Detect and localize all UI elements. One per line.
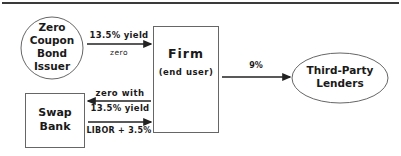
issuer-node: Zero Coupon Bond Issuer (21, 21, 83, 73)
swap-bank-label-line: Swap (25, 106, 85, 120)
edge-label-firm-swap-above: zero with (88, 88, 152, 98)
firm-node-shape (154, 27, 219, 133)
swap-bank-label-line: Bank (25, 120, 85, 134)
issuer-label-line: Bond (21, 47, 83, 60)
swap-bank-node: Swap Bank (25, 106, 85, 134)
issuer-label-line: Zero (21, 21, 83, 34)
edge-label-firm-swap-below: 13.5% yield (88, 103, 152, 113)
lenders-label-line: Lenders (292, 77, 388, 90)
firm-title: Firm (153, 46, 219, 61)
lenders-node: Third-Party Lenders (292, 64, 388, 90)
lenders-label-line: Third-Party (292, 64, 388, 77)
edge-label-issuer-firm-above: 13.5% yield (87, 30, 151, 40)
issuer-label-line: Issuer (21, 60, 83, 73)
firm-subtitle: (end user) (153, 67, 219, 77)
edge-label-firm-lenders-above: 9% (222, 61, 290, 70)
edge-label-issuer-firm-below: zero (87, 48, 151, 57)
issuer-label-line: Coupon (21, 34, 83, 47)
edge-label-swap-firm-below: LIBOR + 3.5% (84, 126, 154, 135)
firm-node: Firm (end user) (153, 46, 219, 77)
